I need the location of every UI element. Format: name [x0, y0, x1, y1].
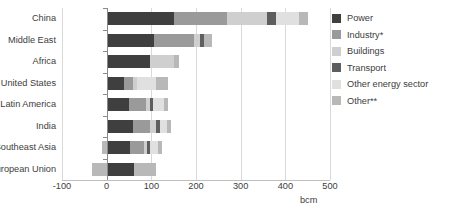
- bar-segment-power: [107, 55, 151, 68]
- bar-segment-other: [158, 141, 162, 154]
- x-axis-tick-labels: -1000100200300400500: [62, 181, 330, 195]
- x-tick-label-500: 500: [310, 181, 350, 191]
- category-label-india: India: [0, 116, 56, 138]
- bar-segment-power: [107, 34, 154, 47]
- x-tick-label-300: 300: [221, 181, 261, 191]
- legend-swatch-icon: [332, 80, 341, 89]
- category-label-united-states: United States: [0, 73, 56, 95]
- bar-segment-industry: [129, 98, 146, 111]
- category-label-latin-america: Latin America: [0, 94, 56, 116]
- legend-swatch-icon: [332, 63, 341, 72]
- legend-label: Other**: [347, 96, 377, 106]
- x-tick-label-100: 100: [131, 181, 171, 191]
- bar-segment-power: [107, 120, 133, 133]
- stacked-bar: [62, 55, 330, 68]
- x-axis-unit-label: bcm: [300, 195, 317, 205]
- bar-segment-other-energy-sector: [137, 77, 156, 90]
- bar-segment-other: [164, 98, 168, 111]
- bar-rows: ChinaMiddle EastAfricaUnited StatesLatin…: [62, 8, 330, 180]
- legend-label: Industry*: [347, 30, 383, 40]
- legend: PowerIndustry*BuildingsTransportOther en…: [332, 10, 447, 109]
- category-label-european-union: European Union: [0, 159, 56, 181]
- stacked-bar: [62, 120, 330, 133]
- legend-swatch-icon: [332, 96, 341, 105]
- chart-row: European Union: [62, 159, 330, 181]
- bar-segment-industry: [133, 120, 151, 133]
- legend-swatch-icon: [332, 14, 341, 23]
- chart-row: Southeast Asia: [62, 137, 330, 159]
- bar-segment-buildings: [150, 55, 173, 68]
- bar-segment-industry: [174, 12, 228, 25]
- zero-axis-line: [107, 8, 108, 180]
- bar-segment-negative: [92, 163, 106, 176]
- bar-segment-power: [107, 163, 135, 176]
- gridline-500: [330, 8, 331, 180]
- chart-row: Africa: [62, 51, 330, 73]
- legend-item[interactable]: Power: [332, 10, 447, 27]
- category-label-africa: Africa: [0, 51, 56, 73]
- bar-segment-power: [107, 77, 124, 90]
- bar-segment-other-energy-sector: [276, 12, 298, 25]
- bar-segment-other-energy-sector: [153, 98, 164, 111]
- plot-area: ChinaMiddle EastAfricaUnited StatesLatin…: [62, 8, 330, 180]
- stacked-bar: [62, 141, 330, 154]
- legend-label: Transport: [347, 63, 386, 73]
- legend-item[interactable]: Other energy sector: [332, 76, 447, 93]
- bar-segment-other: [156, 77, 169, 90]
- legend-item[interactable]: Industry*: [332, 27, 447, 44]
- bar-segment-other: [134, 163, 155, 176]
- stacked-bar: [62, 34, 330, 47]
- x-tick-label--100: -100: [42, 181, 82, 191]
- chart-row: Middle East: [62, 30, 330, 52]
- stacked-bar: [62, 98, 330, 111]
- x-tick-label-0: 0: [87, 181, 127, 191]
- legend-swatch-icon: [332, 30, 341, 39]
- x-tick-label-400: 400: [265, 181, 305, 191]
- bar-segment-power: [107, 141, 130, 154]
- bar-segment-other: [299, 12, 308, 25]
- bar-segment-industry: [130, 141, 144, 154]
- gas-demand-bar-chart: ChinaMiddle EastAfricaUnited StatesLatin…: [0, 0, 449, 219]
- bar-segment-buildings: [227, 12, 266, 25]
- x-tick-label-200: 200: [176, 181, 216, 191]
- stacked-bar: [62, 163, 330, 176]
- legend-swatch-icon: [332, 47, 341, 56]
- bar-segment-power: [107, 98, 129, 111]
- legend-label: Buildings: [347, 46, 384, 56]
- bar-segment-power: [107, 12, 174, 25]
- chart-row: Latin America: [62, 94, 330, 116]
- category-label-china: China: [0, 8, 56, 30]
- bar-segment-other: [167, 120, 171, 133]
- bar-segment-transport: [267, 12, 277, 25]
- chart-row: China: [62, 8, 330, 30]
- legend-item[interactable]: Other**: [332, 93, 447, 110]
- bar-segment-industry: [154, 34, 194, 47]
- category-label-middle-east: Middle East: [0, 30, 56, 52]
- bar-segment-other: [174, 55, 179, 68]
- legend-label: Other energy sector: [347, 79, 428, 89]
- bar-segment-other-energy-sector: [150, 141, 158, 154]
- stacked-bar: [62, 77, 330, 90]
- chart-row: India: [62, 116, 330, 138]
- category-label-southeast-asia: Southeast Asia: [0, 137, 56, 159]
- legend-label: Power: [347, 13, 373, 23]
- stacked-bar: [62, 12, 330, 25]
- bar-segment-other: [204, 34, 211, 47]
- legend-item[interactable]: Transport: [332, 60, 447, 77]
- legend-item[interactable]: Buildings: [332, 43, 447, 60]
- bar-segment-industry: [124, 77, 134, 90]
- chart-row: United States: [62, 73, 330, 95]
